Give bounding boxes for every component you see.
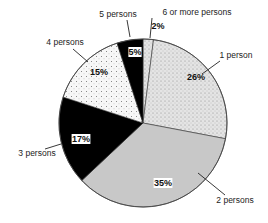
slice-percent-3-persons: 17% bbox=[72, 134, 90, 144]
slice-percent-1-person: 26% bbox=[187, 72, 205, 82]
leader-line bbox=[198, 173, 225, 195]
leader-line bbox=[127, 20, 130, 37]
slice-percent-4-persons: 15% bbox=[90, 67, 108, 77]
slice-percent-6-or-more-persons: 2% bbox=[151, 21, 164, 31]
slice-label-1-person: 1 person bbox=[219, 50, 252, 60]
pie-slice-1-person bbox=[143, 40, 227, 139]
slice-label-6-or-more-persons: 6 or more persons bbox=[163, 7, 232, 17]
slice-percent-5-persons: 5% bbox=[128, 47, 141, 57]
slice-label-3-persons: 3 persons bbox=[18, 148, 55, 158]
slice-label-4-persons: 4 persons bbox=[46, 37, 83, 47]
slice-percent-2-persons: 35% bbox=[154, 178, 172, 188]
household-size-pie-chart: 6 or more persons2%1 person26%2 persons3… bbox=[0, 0, 268, 223]
slice-label-2-persons: 2 persons bbox=[216, 195, 253, 205]
slice-label-5-persons: 5 persons bbox=[99, 9, 136, 19]
leader-line bbox=[73, 49, 88, 62]
pie-slices bbox=[59, 39, 227, 207]
